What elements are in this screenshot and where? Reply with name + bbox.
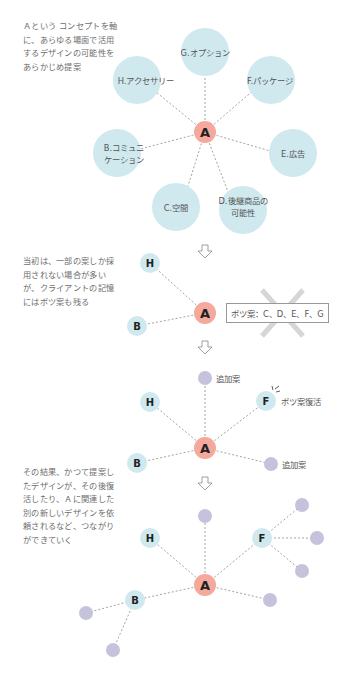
added-node bbox=[198, 371, 212, 385]
down-arrow-icon bbox=[198, 341, 212, 354]
diagram-3: 追加案 追加案 H F ボツ案復活 B A bbox=[127, 371, 321, 473]
svg-text:可能性: 可能性 bbox=[231, 208, 255, 218]
added-node bbox=[310, 531, 324, 545]
svg-text:F.パッケージ: F.パッケージ bbox=[247, 76, 293, 86]
svg-text:A: A bbox=[200, 441, 210, 456]
svg-text:B: B bbox=[133, 458, 141, 469]
svg-text:D.後継商品の: D.後継商品の bbox=[218, 196, 267, 206]
added-node bbox=[263, 593, 277, 607]
svg-text:B.コミュニ: B.コミュニ bbox=[104, 143, 144, 153]
svg-text:G.オプション: G.オプション bbox=[180, 48, 229, 58]
diagram-4: H F B A bbox=[79, 498, 324, 657]
concept-diagrams: .e{stroke:#9a9a9a;stroke-width:0.9;strok… bbox=[0, 0, 355, 677]
svg-text:B: B bbox=[133, 321, 141, 332]
svg-text:H: H bbox=[146, 397, 154, 408]
added-node bbox=[106, 643, 120, 657]
svg-text:追加案: 追加案 bbox=[216, 374, 241, 384]
svg-text:A: A bbox=[200, 125, 210, 140]
svg-text:F: F bbox=[263, 396, 270, 407]
svg-text:ケーション: ケーション bbox=[104, 155, 144, 165]
added-node bbox=[295, 564, 309, 578]
diagram-1: A G.オプション H.アクセサリー F.パッケージ B.コミュニ ケーション … bbox=[93, 28, 317, 234]
added-node bbox=[198, 509, 212, 523]
down-arrow-icon bbox=[198, 477, 212, 490]
diagram-2: H B A bbox=[127, 253, 303, 336]
svg-text:H: H bbox=[146, 533, 154, 544]
svg-text:A: A bbox=[200, 578, 210, 593]
down-arrow-icon bbox=[198, 245, 212, 258]
node-b bbox=[93, 129, 141, 177]
svg-text:E.広告: E.広告 bbox=[281, 149, 305, 159]
svg-text:ボツ案復活: ボツ案復活 bbox=[281, 397, 321, 407]
svg-text:C.空間: C.空間 bbox=[164, 203, 188, 213]
added-node bbox=[264, 457, 278, 471]
svg-text:H: H bbox=[146, 258, 154, 269]
added-node bbox=[295, 498, 309, 512]
svg-text:A: A bbox=[200, 306, 210, 321]
sparkle-icon bbox=[272, 386, 280, 392]
svg-text:追加案: 追加案 bbox=[282, 460, 307, 470]
rejected-ideas-label: ボツ案：C、D、E、F、G bbox=[226, 303, 329, 323]
added-node bbox=[79, 606, 93, 620]
svg-text:F: F bbox=[259, 533, 266, 544]
svg-text:H.アクセサリー: H.アクセサリー bbox=[118, 76, 175, 86]
svg-text:B: B bbox=[131, 595, 139, 606]
